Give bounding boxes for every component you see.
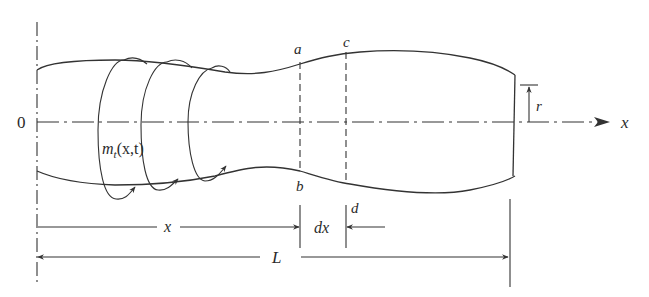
point-b-label: b [296,178,304,194]
point-c-label: c [343,34,350,50]
shaft-top-profile [37,51,515,75]
shaft-right-end [513,75,515,176]
dim-dx-label: dx [314,219,329,236]
point-d-label: d [351,200,359,216]
radius-label: r [536,98,542,114]
torque-label: mt(x,t) [102,140,144,160]
shaft-bottom-profile [37,167,515,193]
axis-x-label: x [620,113,629,132]
shaft-torsion-diagram: x 0 mt(x,t) a c b d r x dx L [0,0,649,297]
dim-x-label: x [163,218,171,235]
distributed-torque-loops [98,58,230,199]
axis-arrowhead-icon [594,117,610,127]
origin-label: 0 [17,113,26,132]
point-a-label: a [294,41,302,57]
dim-L-label: L [271,248,281,267]
